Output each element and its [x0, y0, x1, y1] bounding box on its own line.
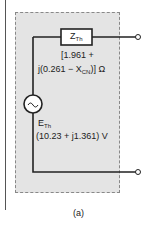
- figure-caption: (a): [73, 208, 84, 219]
- source-value: (10.23 + j1.361) V: [36, 131, 108, 142]
- source-label: ETh: [38, 118, 51, 132]
- impedance-label: ZTh: [70, 31, 83, 45]
- impedance-value-1: [1.961 +: [61, 50, 94, 61]
- impedance-value-2: j(0.261 − XCN)] Ω: [38, 64, 105, 78]
- ac-source-icon: [24, 95, 42, 113]
